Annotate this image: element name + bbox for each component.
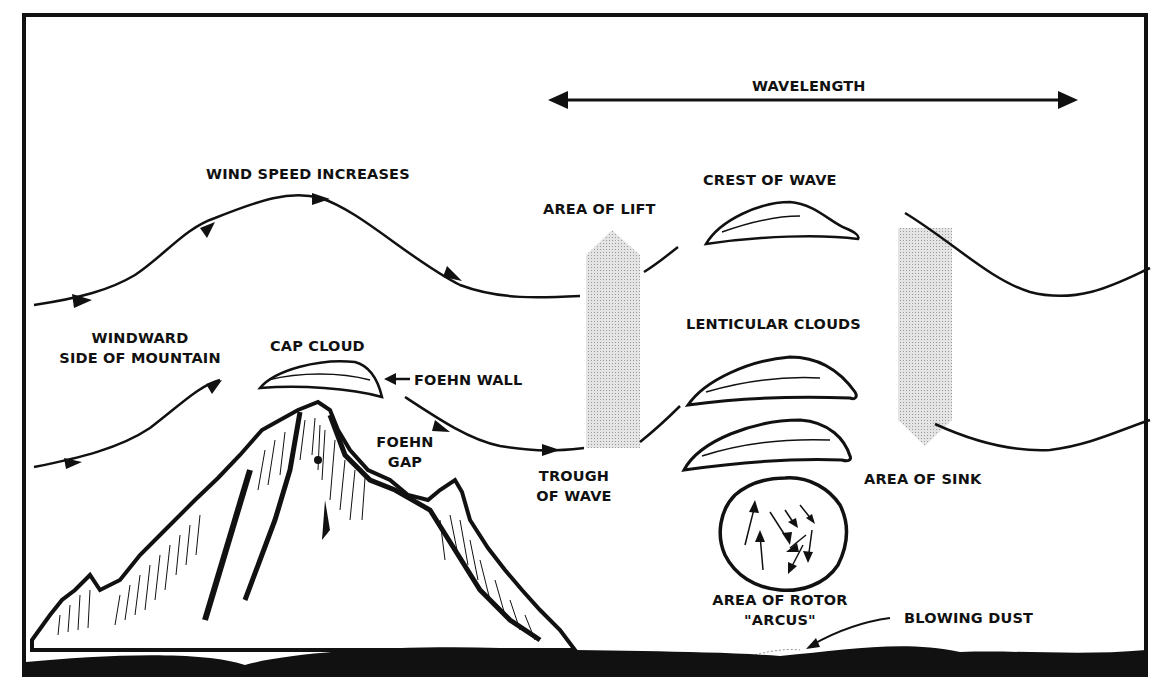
label-cap-cloud: CAP CLOUD bbox=[270, 336, 365, 356]
rotor-cloud bbox=[720, 478, 846, 591]
area-of-sink-column bbox=[898, 228, 952, 446]
label-foehn-gap: FOEHN GAP bbox=[370, 432, 440, 472]
crest-cloud bbox=[706, 202, 858, 244]
area-of-lift-column bbox=[586, 230, 640, 448]
label-crest-of-wave: CREST OF WAVE bbox=[703, 170, 837, 190]
label-blowing-dust: BLOWING DUST bbox=[904, 608, 1033, 628]
label-windward-line2: SIDE OF MOUNTAIN bbox=[40, 348, 240, 368]
label-rotor-line2: "ARCUS" bbox=[700, 610, 860, 630]
label-foehn-gap-line1: FOEHN bbox=[370, 432, 440, 452]
label-area-of-rotor: AREA OF ROTOR "ARCUS" bbox=[700, 590, 860, 630]
lenticular-cloud-upper bbox=[688, 357, 856, 405]
label-wavelength: WAVELENGTH bbox=[752, 76, 866, 96]
mountain bbox=[32, 402, 575, 650]
label-trough-of-wave: TROUGH OF WAVE bbox=[524, 466, 624, 506]
label-trough-line2: OF WAVE bbox=[524, 486, 624, 506]
label-area-of-lift: AREA OF LIFT bbox=[543, 199, 656, 219]
label-windward-side: WINDWARD SIDE OF MOUNTAIN bbox=[40, 328, 240, 368]
label-wind-speed-increases: WIND SPEED INCREASES bbox=[206, 164, 410, 184]
cap-cloud bbox=[260, 361, 382, 397]
label-trough-line1: TROUGH bbox=[524, 466, 624, 486]
label-foehn-gap-line2: GAP bbox=[370, 452, 440, 472]
foehn-wall-pointer bbox=[384, 373, 410, 385]
label-lenticular-clouds: LENTICULAR CLOUDS bbox=[686, 314, 861, 334]
label-windward-line1: WINDWARD bbox=[40, 328, 240, 348]
lenticular-cloud-lower bbox=[684, 420, 851, 470]
label-area-of-sink: AREA OF SINK bbox=[864, 469, 981, 489]
label-foehn-wall: FOEHN WALL bbox=[414, 370, 523, 390]
label-rotor-line1: AREA OF ROTOR bbox=[700, 590, 860, 610]
